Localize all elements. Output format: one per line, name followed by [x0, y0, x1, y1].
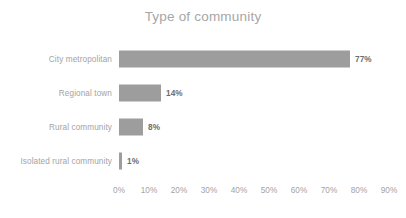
category-label-regional-town: Regional town: [59, 89, 112, 98]
bar-regional-town: [119, 85, 161, 102]
bar-row: City metropolitan 77%: [0, 42, 406, 76]
bar-row: Rural community 8%: [0, 110, 406, 144]
bar-value-regional-town: 14%: [166, 89, 183, 98]
x-tick-label: 90%: [381, 186, 398, 195]
x-tick-label: 60%: [291, 186, 308, 195]
chart-title: Type of community: [0, 9, 406, 24]
bar-chart: Type of community City metropolitan 77% …: [0, 0, 406, 218]
bar-row: Isolated rural community 1%: [0, 144, 406, 178]
category-label-rural-community: Rural community: [49, 123, 112, 132]
bar-group-rural-community: 8%: [119, 119, 160, 136]
bar-rural-community: [119, 119, 143, 136]
x-axis: 0% 10% 20% 30% 40% 50% 60% 70% 80% 90%: [0, 186, 406, 202]
x-tick-label: 20%: [171, 186, 188, 195]
x-tick-label: 30%: [201, 186, 218, 195]
x-tick-label: 40%: [231, 186, 248, 195]
bar-group-regional-town: 14%: [119, 85, 183, 102]
category-label-isolated-rural-community: Isolated rural community: [20, 157, 112, 166]
bar-row: Regional town 14%: [0, 76, 406, 110]
bar-value-isolated-rural-community: 1%: [127, 157, 139, 166]
plot-area: City metropolitan 77% Regional town 14% …: [0, 42, 406, 180]
x-tick-label: 10%: [141, 186, 158, 195]
bar-value-rural-community: 8%: [148, 123, 160, 132]
bar-city-metropolitan: [119, 51, 350, 68]
bar-group-city-metropolitan: 77%: [119, 51, 372, 68]
category-label-city-metropolitan: City metropolitan: [49, 55, 112, 64]
x-tick-label: 70%: [321, 186, 338, 195]
bar-group-isolated-rural-community: 1%: [119, 153, 139, 170]
x-tick-label: 50%: [261, 186, 278, 195]
bar-isolated-rural-community: [119, 153, 122, 170]
x-tick-label: 80%: [351, 186, 368, 195]
bar-value-city-metropolitan: 77%: [355, 55, 372, 64]
x-tick-label: 0%: [113, 186, 125, 195]
